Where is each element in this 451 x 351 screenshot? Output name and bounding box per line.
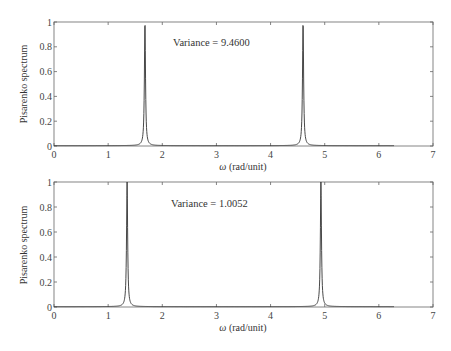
svg-text:7: 7 — [431, 310, 436, 321]
svg-text:5: 5 — [322, 149, 327, 160]
svg-text:6: 6 — [376, 310, 381, 321]
svg-text:0.2: 0.2 — [40, 116, 53, 127]
svg-text:0.8: 0.8 — [40, 41, 53, 52]
bottom-plot-x-axis-label: ω (rad/unit) — [219, 322, 266, 334]
svg-text:1: 1 — [106, 149, 111, 160]
svg-text:2: 2 — [160, 310, 165, 321]
svg-text:7: 7 — [431, 149, 436, 160]
svg-text:4: 4 — [268, 310, 273, 321]
svg-text:4: 4 — [268, 149, 273, 160]
svg-text:0: 0 — [47, 302, 52, 313]
svg-text:0.4: 0.4 — [40, 91, 53, 102]
svg-text:3: 3 — [214, 149, 219, 160]
svg-text:1: 1 — [47, 17, 52, 28]
svg-text:0: 0 — [52, 310, 57, 321]
bottom-plot-variance-annotation: Variance = 1.0052 — [171, 198, 248, 209]
top-plot-variance-annotation: Variance = 9.4600 — [173, 37, 250, 48]
svg-text:0.4: 0.4 — [40, 252, 53, 263]
svg-text:3: 3 — [214, 310, 219, 321]
top-plot-x-axis-label: ω (rad/unit) — [219, 161, 266, 173]
svg-text:0.2: 0.2 — [40, 277, 53, 288]
svg-text:0: 0 — [47, 141, 52, 152]
svg-text:2: 2 — [160, 149, 165, 160]
svg-text:1: 1 — [47, 177, 52, 188]
svg-text:5: 5 — [322, 310, 327, 321]
svg-text:0.6: 0.6 — [40, 227, 53, 238]
bottom-plot: 0123456700.20.40.60.81 Variance = 1.0052… — [18, 177, 436, 335]
svg-text:0: 0 — [52, 149, 57, 160]
svg-text:0.8: 0.8 — [40, 202, 53, 213]
svg-text:0.6: 0.6 — [40, 66, 53, 77]
top-plot: 0123456700.20.40.60.81 Variance = 9.4600… — [18, 17, 436, 174]
bottom-plot-y-axis-label: Pisarenko spectrum — [18, 205, 29, 284]
svg-text:1: 1 — [106, 310, 111, 321]
pisarenko-figure: 0123456700.20.40.60.81 Variance = 9.4600… — [0, 0, 451, 351]
top-plot-y-axis-label: Pisarenko spectrum — [18, 44, 29, 123]
svg-text:6: 6 — [376, 149, 381, 160]
